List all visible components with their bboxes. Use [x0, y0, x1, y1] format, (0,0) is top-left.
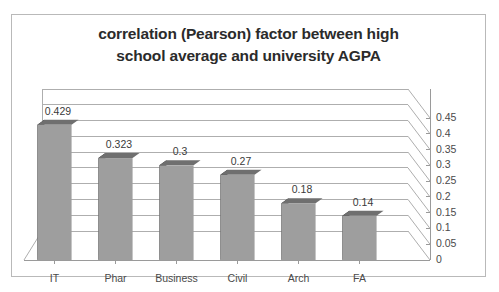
bar-phar: [98, 153, 139, 260]
plot-area: 0.429IT0.323Phar0.3Business0.27Civil0.18…: [12, 15, 487, 278]
value-axis-tick-0p25: 0.25: [436, 174, 456, 186]
value-axis-tick-0p2: 0.2: [436, 190, 451, 202]
bar-business: [159, 160, 200, 260]
bar-value-label: 0.18: [272, 183, 332, 195]
chart-canvas: [12, 15, 487, 278]
value-axis-tick-0p35: 0.35: [436, 143, 456, 155]
value-axis-tick-0p05: 0.05: [436, 237, 456, 249]
value-axis-tick-0p3: 0.3: [436, 158, 451, 170]
bar-value-label: 0.27: [211, 155, 271, 167]
category-label-fa: FA: [320, 272, 400, 284]
value-axis-tick-0p4: 0.4: [436, 127, 451, 139]
value-axis-tick-0: 0: [436, 253, 442, 265]
chart-frame: correlation (Pearson) factor between hig…: [11, 14, 486, 277]
bar-value-label: 0.429: [28, 105, 88, 117]
value-axis-tick-0p1: 0.1: [436, 221, 451, 233]
bar-value-label: 0.14: [333, 196, 393, 208]
bar-arch: [281, 198, 322, 260]
bar-value-label: 0.323: [89, 138, 149, 150]
bar-value-label: 0.3: [150, 145, 210, 157]
value-axis-tick-0p45: 0.45: [436, 111, 456, 123]
bar-fa: [342, 211, 383, 260]
value-axis-tick-0p15: 0.15: [436, 206, 456, 218]
bar-it: [37, 120, 78, 260]
